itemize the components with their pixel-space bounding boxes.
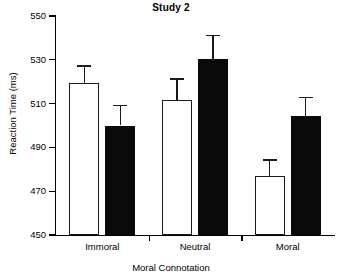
- bar-immoral-open-bars: [69, 83, 99, 235]
- chart-title: Study 2: [0, 2, 342, 13]
- error-bar-line-moral-open-bars: [269, 159, 270, 175]
- error-bar-cap-moral-filled-bars: [299, 97, 313, 98]
- bar-neutral-open-bars: [162, 100, 192, 235]
- x-axis-line: [55, 235, 335, 236]
- y-tick-label-530: 530: [12, 55, 46, 64]
- error-bar-cap-immoral-filled-bars: [113, 105, 127, 106]
- y-tick-550: [49, 15, 56, 16]
- y-tick-label-450: 450: [12, 230, 46, 239]
- y-tick-510: [49, 103, 56, 104]
- bar-immoral-filled-bars: [105, 126, 135, 236]
- bar-neutral-filled-bars: [198, 59, 228, 235]
- bar-moral-open-bars: [255, 176, 285, 235]
- y-tick-490: [49, 147, 56, 148]
- error-bar-line-neutral-filled-bars: [212, 35, 213, 59]
- y-tick-470: [49, 191, 56, 192]
- x-tick-2: [241, 235, 242, 241]
- error-bar-cap-neutral-open-bars: [170, 78, 184, 79]
- y-tick-label-550: 550: [12, 11, 46, 20]
- error-bar-line-immoral-open-bars: [84, 65, 85, 83]
- x-axis-label: Moral Connotation: [0, 262, 342, 273]
- error-bar-line-immoral-filled-bars: [120, 105, 121, 126]
- error-bar-line-neutral-open-bars: [176, 78, 177, 100]
- error-bar-cap-neutral-filled-bars: [206, 35, 220, 36]
- y-tick-530: [49, 59, 56, 60]
- x-group-label-moral: Moral: [248, 241, 328, 252]
- error-bar-cap-immoral-open-bars: [77, 65, 91, 66]
- bar-moral-filled-bars: [291, 116, 321, 235]
- plot-area: [56, 16, 334, 235]
- x-tick-1: [149, 235, 150, 241]
- bar-chart: Study 2 Reaction Time (ms) Moral Connota…: [0, 0, 342, 277]
- y-tick-label-510: 510: [12, 99, 46, 108]
- error-bar-line-moral-filled-bars: [305, 97, 306, 116]
- x-group-label-neutral: Neutral: [155, 241, 235, 252]
- y-tick-label-490: 490: [12, 142, 46, 151]
- error-bar-cap-moral-open-bars: [263, 159, 277, 160]
- y-tick-label-470: 470: [12, 186, 46, 195]
- x-group-label-immoral: Immoral: [62, 241, 142, 252]
- y-axis-label: Reaction Time (ms): [7, 44, 18, 184]
- y-tick-450: [49, 234, 56, 235]
